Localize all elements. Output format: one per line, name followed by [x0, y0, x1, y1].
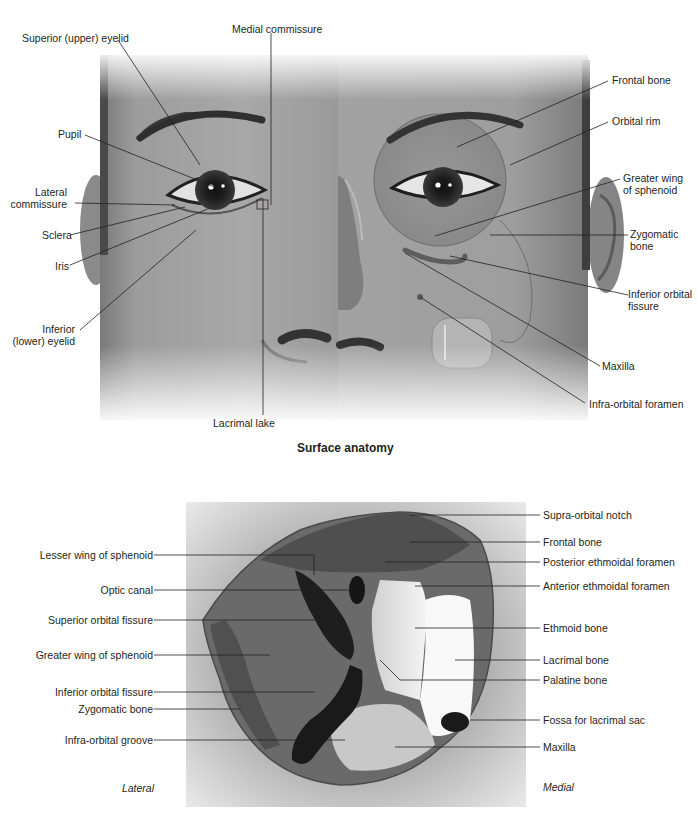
label-greater-wing-sphenoid-orbit: Greater wing of sphenoid [0, 649, 153, 661]
label-anterior-ethmoidal-foramen: Anterior ethmoidal foramen [543, 580, 670, 592]
label-medial-orientation: Medial [543, 781, 574, 793]
label-supra-orbital-notch: Supra-orbital notch [543, 509, 632, 521]
label-palatine-bone: Palatine bone [543, 674, 607, 686]
label-zygomatic-bone-orbit: Zygomatic bone [0, 703, 153, 715]
fossa-lacrimal-sac [441, 712, 469, 732]
label-ethmoid-bone: Ethmoid bone [543, 622, 608, 634]
label-lateral-orientation: Lateral [0, 782, 154, 794]
label-infra-orbital-groove: Infra-orbital groove [0, 734, 153, 746]
label-lacrimal-bone: Lacrimal bone [543, 654, 609, 666]
label-fossa-lacrimal-sac: Fossa for lacrimal sac [543, 714, 645, 726]
label-superior-orbital-fissure: Superior orbital fissure [0, 614, 153, 626]
label-optic-canal: Optic canal [0, 584, 153, 596]
label-maxilla-orbit: Maxilla [543, 741, 576, 753]
orbit-illustration [0, 0, 698, 822]
label-posterior-ethmoidal-foramen: Posterior ethmoidal foramen [543, 556, 675, 568]
label-lesser-wing-sphenoid: Lesser wing of sphenoid [0, 549, 153, 561]
label-frontal-bone-orbit: Frontal bone [543, 536, 602, 548]
label-inferior-orbital-fissure-orbit: Inferior orbital fissure [0, 686, 153, 698]
